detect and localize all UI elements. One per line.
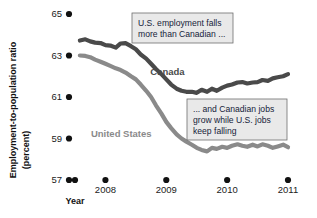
y-tick-label: 63 [51,50,62,61]
y-axis-title-line2: (percent) [21,131,31,170]
y-tick-dot [66,94,72,100]
x-tick-dot [72,177,78,183]
series-label-canada: Canada [150,66,185,77]
x-tick-dot [285,177,291,183]
y-tick-dot [66,11,72,17]
x-tick-label: 2010 [217,184,238,195]
x-tick-label: 2009 [156,184,177,195]
x-tick-dot [102,177,108,183]
x-axis-title: Year [65,196,85,206]
annotation-line: more than Canadian ... [138,29,225,39]
annotation-line: grow while U.S. jobs [193,115,271,125]
x-tick-dot [224,177,230,183]
annotation-canada-grows: ... and Canadian jobsgrow while U.S. job… [187,99,287,140]
x-tick-label: 2008 [95,184,116,195]
employment-ratio-line-chart: 5759616365 2008200920102011 CanadaUnited… [0,0,317,218]
annotation-us-falls: U.S. employment fallsmore than Canadian … [132,13,233,43]
series-label-united-states: United States [91,128,152,139]
x-tick-dot [163,177,169,183]
y-tick-label: 65 [51,8,62,19]
annotation-line: keep falling [193,126,237,136]
y-tick-label: 57 [51,174,62,185]
annotation-line: U.S. employment falls [138,18,222,28]
y-tick-label: 61 [51,91,62,102]
y-tick-label: 59 [51,133,62,144]
y-tick-dot [66,135,72,141]
annotation-line: ... and Canadian jobs [193,104,274,114]
chart-figure: 5759616365 2008200920102011 CanadaUnited… [0,0,317,218]
x-tick-label: 2011 [278,184,298,195]
y-axis-title-line1: Employment-to-population ratio [8,41,18,178]
y-tick-dot [66,52,72,58]
y-tick-dot [66,177,72,183]
